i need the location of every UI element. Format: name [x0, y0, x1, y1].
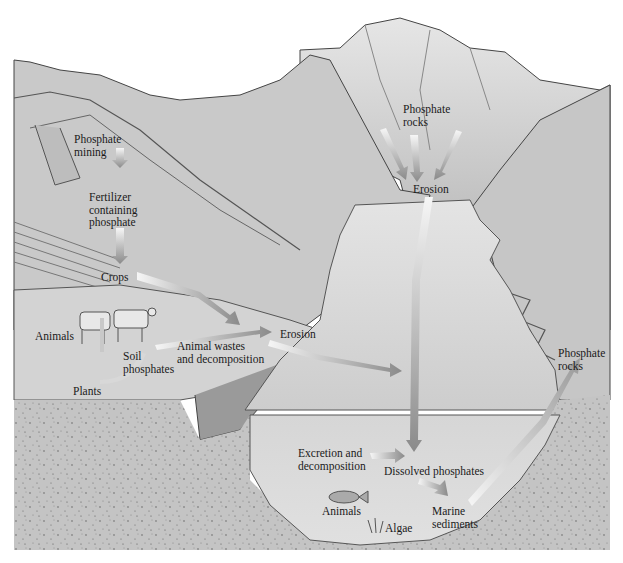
label-erosion-land: Erosion [280, 328, 316, 341]
label-marine-sediments: Marine sediments [432, 505, 478, 530]
label-excretion: Excretion and decomposition [298, 447, 366, 472]
label-plants: Plants [73, 385, 101, 398]
label-animals-marine: Animals [322, 505, 361, 518]
label-algae: Algae [385, 522, 412, 535]
label-erosion-mountain: Erosion [413, 183, 449, 196]
label-soil-phosphates: Soil phosphates [123, 350, 174, 375]
label-dissolved-phosphates: Dissolved phosphates [384, 465, 484, 478]
phosphate-cycle-illustration [0, 0, 623, 563]
label-fertilizer: Fertilizer containing phosphate [89, 191, 138, 229]
label-crops: Crops [101, 271, 128, 284]
label-phosphate-rocks-right: Phosphate rocks [558, 347, 605, 372]
label-phosphate-mining: Phosphate mining [74, 133, 121, 158]
label-phosphate-rocks-top: Phosphate rocks [403, 103, 450, 128]
label-animal-wastes: Animal wastes and decomposition [177, 340, 264, 365]
label-animals-land: Animals [35, 330, 74, 343]
